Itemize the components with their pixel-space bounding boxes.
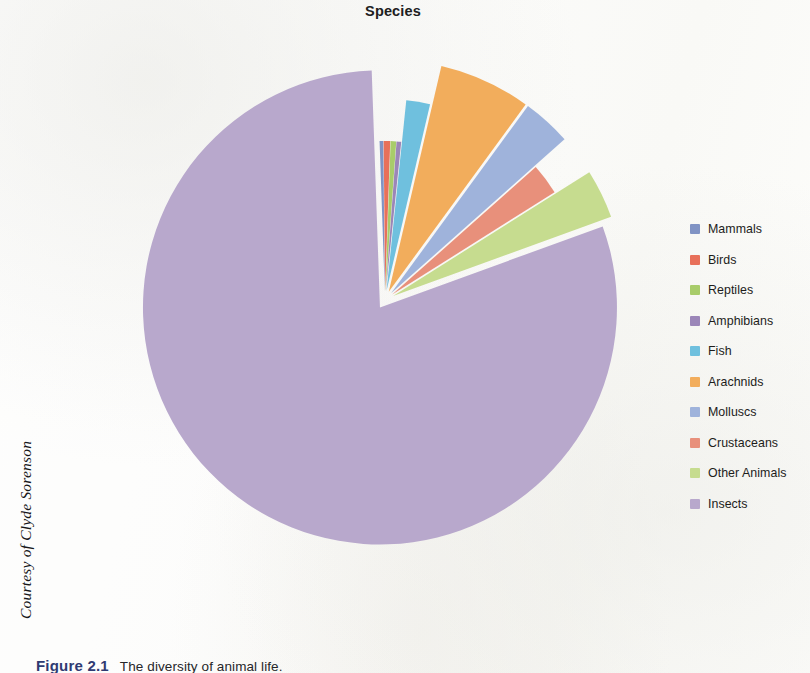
legend-item-label: Reptiles: [708, 283, 753, 297]
pie-chart: [0, 0, 680, 673]
legend-item: Birds: [690, 245, 808, 276]
legend-item-label: Mammals: [708, 222, 762, 236]
photo-credit: Courtesy of Clyde Sorenson: [17, 399, 35, 619]
legend-swatch-icon: [690, 316, 700, 326]
legend-item: Fish: [690, 336, 808, 367]
legend-swatch-icon: [690, 255, 700, 265]
legend-item-label: Molluscs: [708, 405, 757, 419]
legend-item: Molluscs: [690, 397, 808, 428]
legend-item-label: Fish: [708, 344, 732, 358]
legend-swatch-icon: [690, 224, 700, 234]
legend-item-label: Other Animals: [708, 466, 786, 480]
figure-caption-label: Figure 2.1: [36, 657, 109, 673]
legend-swatch-icon: [690, 468, 700, 478]
legend-item: Insects: [690, 489, 808, 520]
legend-item: Arachnids: [690, 367, 808, 398]
figure-caption: Figure 2.1 The diversity of animal life.: [36, 657, 736, 673]
legend-swatch-icon: [690, 285, 700, 295]
legend-item-label: Amphibians: [708, 314, 773, 328]
chart-legend: MammalsBirdsReptilesAmphibiansFishArachn…: [690, 214, 808, 519]
pie-chart-svg: [0, 0, 680, 673]
figure-caption-text: The diversity of animal life.: [120, 659, 283, 673]
legend-swatch-icon: [690, 499, 700, 509]
legend-item: Mammals: [690, 214, 808, 245]
legend-swatch-icon: [690, 407, 700, 417]
legend-swatch-icon: [690, 438, 700, 448]
legend-item: Other Animals: [690, 458, 808, 489]
legend-swatch-icon: [690, 377, 700, 387]
legend-item: Reptiles: [690, 275, 808, 306]
legend-item: Crustaceans: [690, 428, 808, 459]
legend-item-label: Arachnids: [708, 375, 764, 389]
legend-item-label: Insects: [708, 497, 748, 511]
pie-slice-group: [143, 66, 617, 545]
figure-page: Species MammalsBirdsReptilesAmphibiansFi…: [0, 0, 810, 673]
legend-item-label: Birds: [708, 253, 736, 267]
legend-item: Amphibians: [690, 306, 808, 337]
legend-swatch-icon: [690, 346, 700, 356]
legend-item-label: Crustaceans: [708, 436, 778, 450]
